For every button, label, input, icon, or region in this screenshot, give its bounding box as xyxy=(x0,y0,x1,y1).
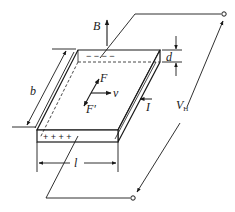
label-thickness: d xyxy=(166,50,173,64)
label-current: I xyxy=(145,100,151,114)
hall-effect-diagram: − − − − + + + + B F F′ v I d b l xyxy=(0,0,235,212)
label-b-field: B xyxy=(93,19,101,33)
label-hall-voltage: VH xyxy=(176,98,188,113)
label-hall-voltage-sub: H xyxy=(183,105,188,113)
terminal-bottom xyxy=(131,196,135,200)
thickness-dimension xyxy=(162,36,182,76)
diagram-canvas: − − − − + + + + B F F′ v I d b l xyxy=(0,0,235,212)
label-velocity: v xyxy=(113,86,119,100)
label-width: b xyxy=(30,84,36,98)
positive-charges: + + + + xyxy=(43,132,72,142)
length-dimension xyxy=(37,142,118,172)
label-force-prime: F′ xyxy=(85,102,96,116)
label-force: F xyxy=(99,71,108,85)
conductor-slab xyxy=(35,50,160,142)
terminal-top xyxy=(222,12,226,16)
label-length: l xyxy=(74,156,78,170)
negative-charges: − − − − xyxy=(86,51,115,61)
